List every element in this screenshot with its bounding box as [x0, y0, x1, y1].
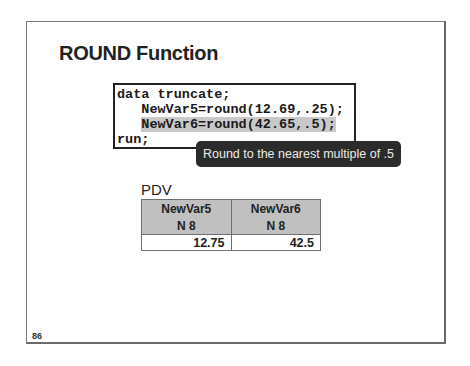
- slide-frame: [26, 21, 446, 344]
- highlighted-code: NewVar6=round(42.65,.5);: [141, 117, 335, 132]
- code-line-3-indent: [117, 117, 141, 132]
- value-newvar5: 12.75: [142, 235, 232, 251]
- code-line-2: NewVar5=round(12.69,.25);: [117, 102, 344, 117]
- code-block: data truncate; NewVar5=round(12.69,.25);…: [113, 83, 356, 149]
- column-header-newvar6: NewVar6: [231, 200, 321, 219]
- callout-tooltip: Round to the nearest multiple of .5: [196, 141, 401, 167]
- code-line-1: data truncate;: [117, 87, 230, 102]
- column-type-newvar5: N 8: [142, 218, 232, 235]
- table-row: 12.75 42.5: [142, 235, 321, 251]
- pdv-table: NewVar5 NewVar6 N 8 N 8 12.75 42.5: [141, 199, 321, 251]
- code-line-3: NewVar6=round(42.65,.5);: [117, 117, 336, 132]
- column-header-newvar5: NewVar5: [142, 200, 232, 219]
- column-type-newvar6: N 8: [231, 218, 321, 235]
- value-newvar6: 42.5: [231, 235, 321, 251]
- callout-text: Round to the nearest multiple of .5: [203, 147, 394, 161]
- code-line-4: run;: [117, 132, 149, 147]
- slide-title: ROUND Function: [59, 42, 218, 65]
- slide-number: 86: [32, 331, 42, 341]
- pdv-label: PDV: [141, 181, 172, 198]
